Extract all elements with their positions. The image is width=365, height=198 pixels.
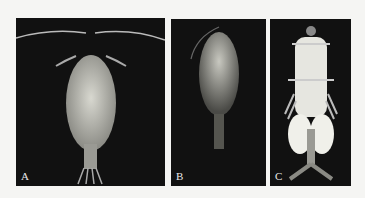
figure-panel-c: C <box>270 19 351 186</box>
copepod-image-b <box>171 19 266 186</box>
panel-label-c: C <box>275 171 282 182</box>
figure-panel-b: B <box>171 19 266 186</box>
panel-label-a: A <box>21 171 29 182</box>
copepod-image-c <box>270 19 351 186</box>
figure-panel-a: A <box>16 18 165 186</box>
copepod-image-a <box>16 18 165 186</box>
panel-label-b: B <box>176 171 183 182</box>
